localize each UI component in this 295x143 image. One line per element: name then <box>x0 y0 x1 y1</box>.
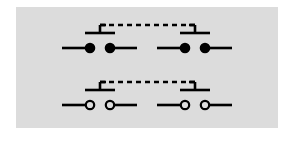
switch-top-left-contact-b <box>106 44 114 52</box>
switch-bottom-right-contact-b <box>201 101 209 109</box>
switch-bottom-right-contact-a <box>181 101 189 109</box>
figure-root <box>0 0 295 143</box>
switch-bottom-left-contact-a <box>86 101 94 109</box>
switch-top-right-contact-a <box>181 44 189 52</box>
switch-top-left-contact-a <box>86 44 94 52</box>
switch-top-right-contact-b <box>201 44 209 52</box>
schematic-drawing <box>0 0 295 143</box>
schematic-layer <box>16 7 278 128</box>
switch-bottom-left-contact-b <box>106 101 114 109</box>
